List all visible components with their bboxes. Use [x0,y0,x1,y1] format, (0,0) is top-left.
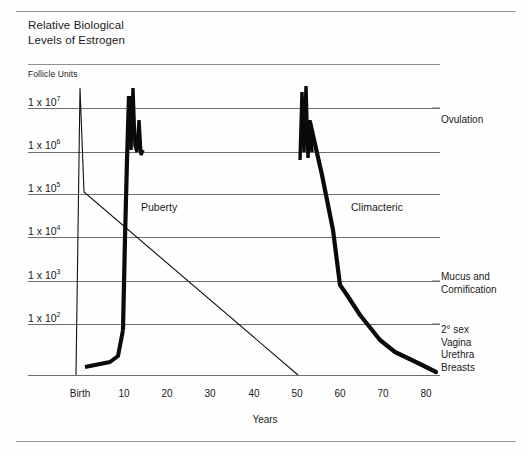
series-estrogen-puberty-rise [123,96,129,330]
series-monthly-cycle-band [137,86,304,160]
series-ovulatory-spikes-puberty [129,88,143,155]
y-tick-label-1e3: 1 x 103 [28,268,61,281]
figure-container: Relative Biological Levels of Estrogen F… [0,0,530,454]
y-tick-label-1e2: 1 x 102 [28,311,61,324]
annotation-secondary-sex: 2° sex Vagina Urethra Breasts [441,324,475,374]
gridline-1e4 [28,237,440,238]
x-tick-label-30: 30 [204,388,215,399]
y-tick-label-1e6: 1 x 106 [28,138,61,151]
x-tick-label-60: 60 [334,388,345,399]
series-follicle-thin-line [76,88,298,375]
x-tick-label-70: 70 [377,388,388,399]
x-axis-title: Years [0,414,530,425]
series-estrogen-infancy [85,330,123,367]
figure-border-top [16,11,516,12]
x-tick-label-40: 40 [248,388,259,399]
annotation-ovulation: Ovulation [441,114,483,127]
x-tick-label-50: 50 [291,388,302,399]
gridline-1e6 [28,152,440,153]
y-axis-unit-label: Follicle Units [28,69,78,79]
annotation-mucus-cornification: Mucus and Cornification [441,271,497,296]
series-estrogen-postmenopausal [347,295,436,372]
chart-curves [0,0,530,454]
x-tick-label-birth: Birth [70,388,91,399]
y-tick-label-1e7: 1 x 107 [28,95,61,108]
x-axis-baseline [28,375,440,376]
annotation-puberty: Puberty [141,201,177,213]
title-divider [28,64,440,65]
x-tick-label-20: 20 [161,388,172,399]
figure-border-bottom [16,441,516,442]
gridline-1e7 [28,108,440,109]
x-tick-label-10: 10 [118,388,129,399]
annotation-climacteric: Climacteric [351,201,403,213]
page-title: Relative Biological Levels of Estrogen [28,18,125,47]
x-tick-label-80: 80 [420,388,431,399]
gridline-1e5 [28,194,440,195]
gridline-1e3 [28,281,440,282]
series-ovulatory-spikes-climacteric [300,86,312,160]
gridline-1e2 [28,324,440,325]
series-estrogen-climacteric-decline [310,122,347,295]
y-tick-label-1e5: 1 x 105 [28,181,61,194]
y-tick-label-1e4: 1 x 104 [28,224,61,237]
